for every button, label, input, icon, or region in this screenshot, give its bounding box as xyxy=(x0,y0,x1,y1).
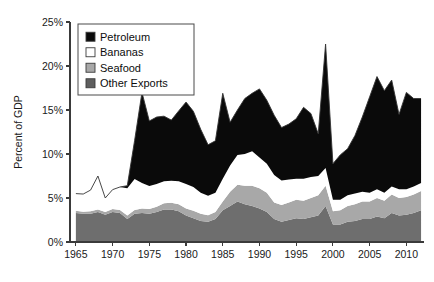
legend-swatch-seafood xyxy=(86,63,95,72)
legend-label-other-exports: Other Exports xyxy=(100,77,168,89)
chart-container: 1965197019751980198519901995200020052010… xyxy=(0,0,434,282)
x-tick-label: 1965 xyxy=(64,248,88,260)
legend-swatch-petroleum xyxy=(86,32,95,41)
x-tick-label: 2010 xyxy=(395,248,419,260)
legend-swatch-other-exports xyxy=(86,79,95,88)
y-axis-title: Percent of GDP xyxy=(12,95,24,169)
x-tick-label: 1985 xyxy=(211,248,235,260)
y-tick-label: 0% xyxy=(48,236,63,248)
legend-swatch-bananas xyxy=(86,48,95,57)
x-tick-label: 1995 xyxy=(285,248,309,260)
x-tick-label: 1970 xyxy=(101,248,125,260)
x-tick-label: 1990 xyxy=(248,248,272,260)
stacked-area-chart: 1965197019751980198519901995200020052010… xyxy=(0,0,434,282)
x-tick-label: 1975 xyxy=(138,248,162,260)
legend-label-bananas: Bananas xyxy=(100,46,144,58)
y-tick-label: 5% xyxy=(48,192,63,204)
y-tick-label: 25% xyxy=(42,16,63,28)
legend-label-petroleum: Petroleum xyxy=(100,31,150,43)
y-tick-label: 10% xyxy=(42,148,63,160)
y-tick-label: 20% xyxy=(42,60,63,72)
x-tick-label: 2005 xyxy=(358,248,382,260)
x-tick-label: 1980 xyxy=(174,248,198,260)
legend-label-seafood: Seafood xyxy=(100,62,141,74)
x-tick-label: 2000 xyxy=(321,248,345,260)
y-axis-title-text: Percent of GDP xyxy=(12,95,24,169)
chart-legend: PetroleumBananasSeafoodOther Exports xyxy=(78,24,194,95)
y-tick-label: 15% xyxy=(42,104,63,116)
